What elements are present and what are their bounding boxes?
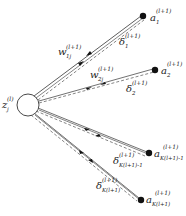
target-node-1 bbox=[140, 13, 146, 19]
target-node-4 bbox=[138, 197, 144, 203]
backward-arrow-icon bbox=[88, 159, 93, 163]
weight-label-2: w2j(l+1) bbox=[90, 65, 114, 83]
edge-3 bbox=[36, 108, 148, 156]
weight-label-1: w1j(l+1) bbox=[58, 43, 82, 60]
forward-arrow-icon bbox=[78, 61, 84, 66]
target-label-2: a2(l+1) bbox=[161, 60, 183, 78]
target-label-1: a1(l+1) bbox=[150, 7, 172, 25]
forward-arrow-icon bbox=[79, 150, 84, 154]
source-node bbox=[17, 94, 39, 116]
target-node-3 bbox=[146, 150, 152, 156]
delta-label-2: δ2(l+1) bbox=[126, 79, 148, 96]
target-label-3: aK(l+1)-1(l+1) bbox=[154, 143, 184, 161]
target-node-2 bbox=[152, 67, 158, 73]
backprop-diagram: zj(l) a1(l+1) a2(l+1) aK(l+1)-1(l+1) aK(… bbox=[0, 0, 186, 216]
delta-label-3: δK(l+1)-1(l+1) bbox=[113, 151, 143, 168]
target-label-4: aK(l+1)(l+1) bbox=[146, 189, 171, 207]
delta-label-1: δ1(l+1) bbox=[119, 32, 141, 49]
source-label: zj(l) bbox=[1, 95, 14, 113]
